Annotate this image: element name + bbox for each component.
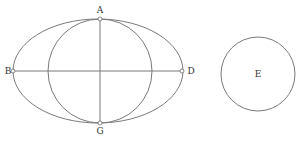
label-b: B	[5, 66, 12, 76]
label-e: E	[255, 69, 262, 79]
point-b	[11, 69, 15, 73]
point-a	[98, 17, 102, 21]
label-g: G	[96, 126, 103, 136]
label-d: D	[187, 66, 194, 76]
geometry-diagram: A G B D E	[0, 0, 300, 147]
point-d	[180, 69, 184, 73]
point-g	[98, 121, 102, 125]
label-a: A	[96, 5, 104, 15]
